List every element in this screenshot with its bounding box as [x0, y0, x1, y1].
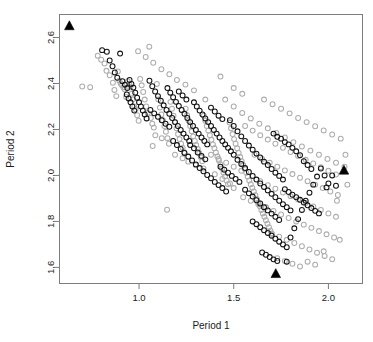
data-point-circle	[104, 49, 109, 54]
data-point-circle	[220, 117, 225, 122]
data-point-circle	[224, 189, 229, 194]
data-point-circle	[309, 167, 314, 172]
data-point-circle	[239, 134, 244, 139]
series-gray-open-circles	[80, 44, 350, 269]
x-axis: 1.01.52.0	[132, 284, 335, 303]
data-point-circle	[209, 105, 214, 110]
data-point-circle	[326, 211, 331, 216]
data-point-circle	[311, 161, 316, 166]
data-point-circle	[151, 60, 156, 65]
data-point-circle	[142, 97, 147, 102]
data-point-circle	[332, 235, 337, 240]
data-point-circle	[292, 226, 297, 231]
data-point-circle	[248, 116, 253, 121]
data-point-circle	[118, 51, 123, 56]
plot-frame	[60, 15, 363, 284]
data-point-circle	[150, 144, 155, 149]
data-point-circle	[334, 160, 339, 165]
data-point-circle	[231, 152, 236, 157]
data-point-circle	[315, 250, 320, 255]
data-point-circle	[138, 76, 143, 81]
data-point-circle	[257, 121, 262, 126]
data-point-circle	[308, 148, 313, 153]
data-point-circle	[156, 94, 161, 99]
chart-canvas: 1.01.52.01.61.82.02.22.42.6Period 1Perio…	[0, 0, 373, 342]
data-point-circle	[284, 245, 289, 250]
data-point-circle	[322, 253, 327, 258]
data-point-circle	[136, 118, 141, 123]
data-point-circle	[168, 90, 173, 95]
data-point-circle	[205, 142, 210, 147]
data-point-circle	[279, 106, 284, 111]
data-point-circle	[288, 208, 293, 213]
y-tick-label: 1.6	[45, 261, 56, 274]
data-point-circle	[112, 70, 117, 75]
data-point-circle	[298, 264, 303, 269]
data-point-circle	[307, 247, 312, 252]
data-point-circle	[258, 133, 263, 138]
data-point-circle	[286, 216, 291, 221]
data-point-circle	[334, 214, 339, 219]
data-point-circle	[102, 61, 107, 66]
data-point-circle	[250, 147, 255, 152]
data-point-circle	[107, 73, 112, 78]
data-point-circle	[291, 140, 296, 145]
data-point-circle	[240, 91, 245, 96]
data-point-circle	[335, 193, 340, 198]
data-point-circle	[282, 168, 287, 173]
data-point-circle	[192, 88, 197, 93]
data-point-circle	[141, 90, 146, 95]
data-point-circle	[273, 141, 278, 146]
data-point-circle	[150, 84, 155, 89]
data-point-circle	[337, 237, 342, 242]
data-point-circle	[136, 49, 141, 54]
data-point-circle	[321, 128, 326, 133]
x-tick-label: 1.5	[227, 292, 240, 303]
data-point-circle	[143, 55, 148, 60]
data-point-circle	[307, 190, 312, 195]
data-point-circle	[265, 137, 270, 142]
data-point-circle	[165, 207, 170, 212]
y-tick-label: 1.8	[45, 215, 56, 228]
data-point-circle	[100, 48, 105, 53]
data-point-circle	[277, 218, 282, 223]
y-axis: 1.61.82.02.22.42.6	[45, 31, 60, 274]
data-point-circle	[171, 95, 176, 100]
data-point-circle	[223, 97, 228, 102]
data-point-circle	[107, 58, 112, 63]
data-point-circle	[212, 172, 217, 177]
data-point-circle	[153, 89, 158, 94]
data-point-circle	[338, 136, 343, 141]
data-point-circle	[290, 172, 295, 177]
data-point-circle	[110, 80, 115, 85]
data-point-circle	[176, 89, 181, 94]
data-point-circle	[159, 67, 164, 72]
data-point-circle	[243, 139, 248, 144]
data-point-circle	[231, 86, 236, 91]
data-point-circle	[288, 235, 293, 240]
data-point-circle	[299, 207, 304, 212]
data-point-circle	[174, 78, 179, 83]
data-point-circle	[231, 104, 236, 109]
data-point-circle	[231, 186, 236, 191]
data-point-circle	[240, 110, 245, 115]
data-point-circle	[316, 152, 321, 157]
data-point-circle	[186, 154, 191, 159]
data-point-circle	[321, 249, 326, 254]
data-point-circle	[212, 109, 217, 114]
data-point-circle	[218, 74, 223, 79]
data-point-circle	[305, 179, 310, 184]
data-point-circle	[203, 97, 208, 102]
data-point-circle	[325, 156, 330, 161]
data-point-circle	[171, 139, 176, 144]
x-axis-title: Period 1	[192, 320, 230, 331]
data-point-circle	[296, 116, 301, 121]
data-point-circle	[153, 133, 158, 138]
data-point-circle	[170, 106, 175, 111]
series-black-open-circles	[100, 48, 339, 264]
data-point-circle	[279, 212, 284, 217]
data-point-circle	[326, 168, 331, 173]
scatter-plot-figure: 1.01.52.01.61.82.02.22.42.6Period 1Perio…	[0, 0, 373, 342]
data-point-circle	[165, 86, 170, 91]
data-point-circle	[330, 257, 335, 262]
